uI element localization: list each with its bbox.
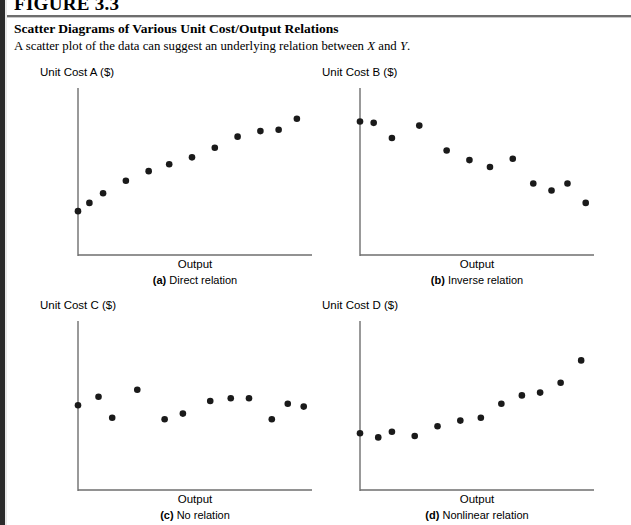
data-point xyxy=(375,434,382,441)
panel-a-svg xyxy=(40,84,312,256)
panel-b-subcaption: (b) Inverse relation xyxy=(360,274,594,286)
data-point xyxy=(389,135,396,142)
data-point xyxy=(284,401,291,408)
data-point xyxy=(109,415,116,422)
panel-d-svg xyxy=(322,317,594,491)
data-point xyxy=(75,402,82,409)
data-point xyxy=(498,401,505,408)
panel-c-y-axis-label: Unit Cost C ($) xyxy=(40,299,116,311)
data-point xyxy=(370,120,377,127)
panel-c-relation: No relation xyxy=(177,509,230,521)
header-divider-shadow xyxy=(7,17,631,18)
data-point xyxy=(487,164,494,171)
data-point xyxy=(166,161,173,168)
figure-title: Scatter Diagrams of Various Unit Cost/Ou… xyxy=(14,21,339,37)
panel-d-points xyxy=(357,357,585,441)
figure-description: A scatter plot of the data can suggest a… xyxy=(14,39,410,54)
data-point xyxy=(100,190,107,197)
panel-c-x-axis-label: Output xyxy=(78,493,312,505)
caption-var-y: Y xyxy=(400,39,407,53)
panel-a-plot-area xyxy=(40,84,312,256)
caption-text-post: . xyxy=(407,39,410,53)
data-point xyxy=(212,144,219,151)
data-point xyxy=(416,122,423,129)
data-point xyxy=(578,357,585,364)
panel-d-axes xyxy=(360,321,594,491)
panel-c-svg xyxy=(40,317,312,491)
data-point xyxy=(86,200,93,207)
panel-c-tag: (c) xyxy=(160,509,173,521)
data-point xyxy=(478,415,485,422)
data-point xyxy=(234,133,241,140)
panel-d-plot-area xyxy=(322,317,594,491)
panel-b-y-axis-label: Unit Cost B ($) xyxy=(322,66,397,78)
panel-b-x-axis-label: Output xyxy=(360,258,594,270)
data-point xyxy=(246,395,253,402)
panel-b-plot-area xyxy=(322,84,594,256)
data-point xyxy=(180,410,187,417)
caption-text-pre: A scatter plot of the data can suggest a… xyxy=(14,39,367,53)
panel-c-axes xyxy=(78,321,312,491)
panel-b-relation: Inverse relation xyxy=(448,274,523,286)
data-point xyxy=(457,417,464,424)
data-point xyxy=(207,398,214,405)
data-point xyxy=(357,430,364,437)
data-point xyxy=(519,392,526,399)
data-point xyxy=(227,395,234,402)
panel-a-tag: (a) xyxy=(153,274,166,286)
data-point xyxy=(537,389,544,396)
data-point xyxy=(145,168,152,175)
data-point xyxy=(269,416,276,423)
data-point xyxy=(434,423,441,430)
data-point xyxy=(557,380,564,387)
data-point xyxy=(123,178,130,185)
data-point xyxy=(530,180,537,187)
page-edge-bar-highlight xyxy=(5,0,7,525)
caption-text-mid: and xyxy=(375,39,400,53)
data-point xyxy=(564,180,571,187)
figure-number: FIGURE 3.3 xyxy=(14,0,614,12)
data-point xyxy=(509,155,516,162)
panel-a-points xyxy=(75,115,300,214)
data-point xyxy=(389,429,396,436)
panel-c-points xyxy=(75,387,307,423)
panel-a-y-axis-label: Unit Cost A ($) xyxy=(40,66,114,78)
data-point xyxy=(548,187,555,194)
data-point xyxy=(294,115,301,122)
panel-b-tag: (b) xyxy=(431,274,445,286)
panel-d-relation: Nonlinear relation xyxy=(442,509,528,521)
data-point xyxy=(257,128,264,135)
data-point xyxy=(189,154,196,161)
panel-c-plot-area xyxy=(40,317,312,491)
panel-a-axes xyxy=(78,88,312,256)
panel-d-subcaption: (d) Nonlinear relation xyxy=(360,509,594,521)
data-point xyxy=(300,403,307,410)
panel-d-x-axis-label: Output xyxy=(360,493,594,505)
panel-a-subcaption: (a) Direct relation xyxy=(78,274,312,286)
panel-b-svg xyxy=(322,84,594,256)
data-point xyxy=(357,118,364,125)
panel-a-relation: Direct relation xyxy=(169,274,237,286)
data-point xyxy=(466,157,473,164)
data-point xyxy=(75,208,82,215)
panel-c-subcaption: (c) No relation xyxy=(78,509,312,521)
panel-a-x-axis-label: Output xyxy=(78,258,312,270)
figure-header: FIGURE 3.3 xyxy=(14,0,614,12)
data-point xyxy=(582,200,589,207)
data-point xyxy=(95,394,102,401)
data-point xyxy=(161,416,168,423)
panel-b-axes xyxy=(360,88,594,256)
data-point xyxy=(411,433,418,440)
data-point xyxy=(134,387,141,394)
panel-b-points xyxy=(357,118,589,206)
data-point xyxy=(275,126,282,133)
panel-d-tag: (d) xyxy=(425,509,439,521)
panel-d-y-axis-label: Unit Cost D ($) xyxy=(322,299,398,311)
caption-var-x: X xyxy=(367,39,375,53)
data-point xyxy=(443,147,450,154)
